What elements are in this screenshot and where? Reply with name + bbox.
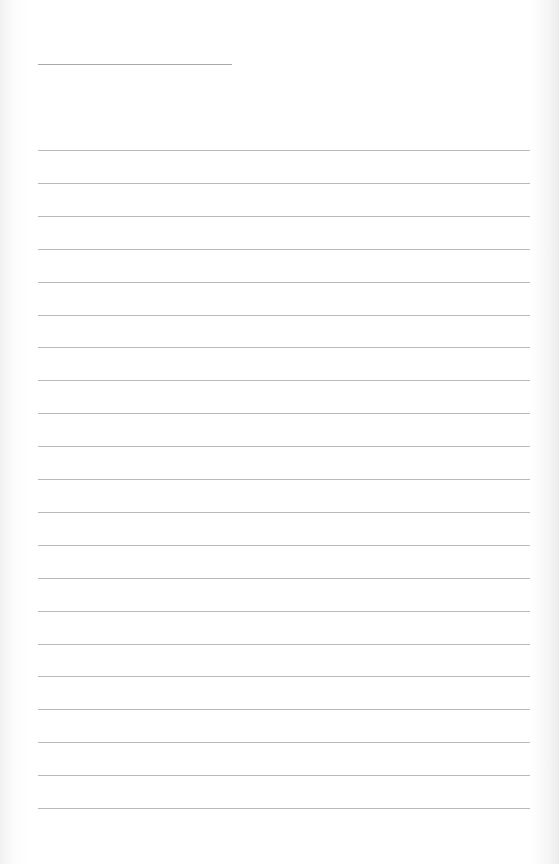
- ruled-line: [38, 446, 530, 447]
- ruled-line: [38, 676, 530, 677]
- ruled-line: [38, 479, 530, 480]
- ruled-line: [38, 150, 530, 151]
- ruled-line: [38, 808, 530, 809]
- ruled-line: [38, 709, 530, 710]
- ruled-line: [38, 742, 530, 743]
- ruled-line: [38, 644, 530, 645]
- ruled-line: [38, 512, 530, 513]
- title-underline: [38, 64, 232, 65]
- ruled-line: [38, 578, 530, 579]
- ruled-line: [38, 315, 530, 316]
- ruled-line: [38, 611, 530, 612]
- ruled-line: [38, 347, 530, 348]
- ruled-line: [38, 282, 530, 283]
- lined-paper-page: [0, 0, 559, 864]
- ruled-line: [38, 216, 530, 217]
- ruled-line: [38, 183, 530, 184]
- ruled-line: [38, 775, 530, 776]
- ruled-line: [38, 413, 530, 414]
- ruled-line: [38, 249, 530, 250]
- ruled-line: [38, 380, 530, 381]
- ruled-line: [38, 545, 530, 546]
